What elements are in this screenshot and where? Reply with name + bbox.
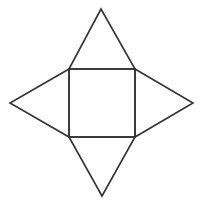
triangle-top — [69, 9, 135, 69]
base-square — [69, 69, 135, 137]
diagram-canvas — [0, 0, 201, 205]
triangle-left — [10, 69, 69, 137]
triangle-bottom — [69, 137, 135, 196]
triangle-right — [135, 69, 193, 137]
pyramid-net-diagram — [0, 0, 201, 205]
